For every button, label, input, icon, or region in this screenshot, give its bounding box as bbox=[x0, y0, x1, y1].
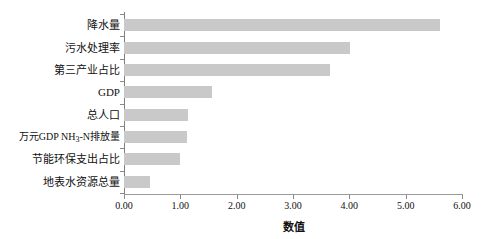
category-labels: 降水量污水处理率第三产业占比GDP总人口万元GDP NH3-N排放量节能环保支出… bbox=[0, 14, 120, 193]
x-tick-label: 4.00 bbox=[329, 200, 369, 211]
y-tick bbox=[120, 193, 124, 194]
bar-row bbox=[124, 126, 462, 148]
x-tick bbox=[462, 195, 463, 199]
bar[interactable] bbox=[124, 64, 330, 76]
category-label: 第三产业占比 bbox=[0, 64, 120, 76]
y-tick bbox=[120, 148, 124, 149]
x-tick bbox=[124, 195, 125, 199]
y-tick bbox=[120, 104, 124, 105]
y-tick bbox=[120, 126, 124, 127]
bar-row bbox=[124, 59, 462, 81]
x-tick bbox=[349, 195, 350, 199]
bar-chart: 降水量污水处理率第三产业占比GDP总人口万元GDP NH3-N排放量节能环保支出… bbox=[0, 0, 483, 239]
y-tick bbox=[120, 36, 124, 37]
category-label: GDP bbox=[0, 86, 120, 98]
bar[interactable] bbox=[124, 176, 150, 188]
bar-row bbox=[124, 171, 462, 193]
category-label: 降水量 bbox=[0, 19, 120, 31]
x-tick-label: 1.00 bbox=[160, 200, 200, 211]
bar-row bbox=[124, 81, 462, 103]
bar[interactable] bbox=[124, 19, 440, 31]
subscript: 3 bbox=[75, 135, 79, 144]
x-tick-label: 5.00 bbox=[386, 200, 426, 211]
x-axis-title: 数值 bbox=[124, 218, 463, 234]
x-tick bbox=[180, 195, 181, 199]
x-tick bbox=[293, 195, 294, 199]
x-tick-label: 6.00 bbox=[442, 200, 482, 211]
category-label: 万元GDP NH3-N排放量 bbox=[0, 131, 120, 144]
x-tick-label: 3.00 bbox=[273, 200, 313, 211]
plot-area bbox=[124, 14, 462, 193]
y-tick bbox=[120, 81, 124, 82]
bar-row bbox=[124, 148, 462, 170]
category-label: 污水处理率 bbox=[0, 42, 120, 54]
category-label: 地表水资源总量 bbox=[0, 176, 120, 188]
bar[interactable] bbox=[124, 131, 187, 143]
bar[interactable] bbox=[124, 153, 180, 165]
chart-title-clipped bbox=[0, 0, 483, 7]
category-label: 节能环保支出占比 bbox=[0, 153, 120, 165]
x-tick-label: 0.00 bbox=[104, 200, 144, 211]
y-tick bbox=[120, 171, 124, 172]
bar-row bbox=[124, 14, 462, 36]
y-tick bbox=[120, 14, 124, 15]
x-tick bbox=[406, 195, 407, 199]
x-tick-label: 2.00 bbox=[217, 200, 257, 211]
bar[interactable] bbox=[124, 109, 188, 121]
bar-row bbox=[124, 104, 462, 126]
bar[interactable] bbox=[124, 42, 350, 54]
x-tick bbox=[237, 195, 238, 199]
category-label: 总人口 bbox=[0, 109, 120, 121]
y-tick bbox=[120, 59, 124, 60]
bar[interactable] bbox=[124, 86, 212, 98]
bar-row bbox=[124, 36, 462, 58]
